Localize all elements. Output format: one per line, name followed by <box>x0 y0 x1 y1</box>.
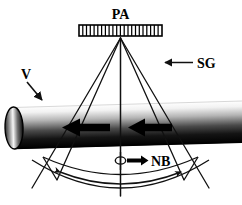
pipe-cylinder-group <box>4 100 242 149</box>
sector-scan-diagram: PA SG V NB <box>0 0 242 205</box>
label-pa: PA <box>112 7 131 22</box>
pipe-end-cap <box>4 107 23 149</box>
nb-pointer-arrow <box>127 156 149 166</box>
pipe-body <box>13 100 242 148</box>
figure-container: PA SG V NB <box>0 0 242 205</box>
v-pointer-arrow <box>27 82 42 100</box>
rotation-loop-icon <box>115 152 125 170</box>
phased-array-transducer[interactable] <box>79 25 162 36</box>
label-v: V <box>21 67 31 82</box>
transducer-elements <box>83 25 158 36</box>
label-nb: NB <box>151 154 170 169</box>
label-sg: SG <box>197 56 216 71</box>
